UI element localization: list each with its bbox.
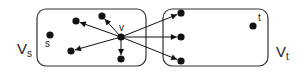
node-g xyxy=(177,57,184,64)
node-d xyxy=(117,55,124,62)
node-a xyxy=(72,17,79,24)
diagram-canvas: VsVt vst xyxy=(0,0,297,72)
node-label-t: t xyxy=(258,12,261,23)
set-label-vt: Vt xyxy=(276,43,289,62)
graph-diagram: VsVt vst xyxy=(0,0,297,72)
edges-layer xyxy=(75,15,177,60)
edge-v-c xyxy=(75,37,121,50)
node-label-s: s xyxy=(45,38,50,49)
edge-v-e xyxy=(121,15,177,37)
node-e xyxy=(177,9,184,16)
node-f xyxy=(177,33,184,40)
node-v xyxy=(117,33,124,40)
node-c xyxy=(67,47,74,54)
node-label-v: v xyxy=(119,22,124,33)
set-label-vs: Vs xyxy=(17,40,32,59)
node-b xyxy=(98,12,105,19)
node-t xyxy=(249,22,256,29)
edge-v-g xyxy=(121,37,177,59)
